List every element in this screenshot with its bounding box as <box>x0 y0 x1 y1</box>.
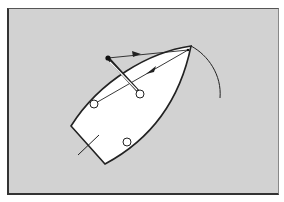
sheet-arrow-icon <box>132 51 141 57</box>
sail-arc <box>191 46 220 98</box>
hull <box>71 46 191 164</box>
forestay-point-icon <box>187 49 190 52</box>
port-fitting-icon <box>90 100 98 108</box>
centre-fitting-icon <box>136 90 144 98</box>
jib-point-icon <box>105 55 110 60</box>
starboard-fitting-icon <box>123 138 131 146</box>
dinghy-diagram <box>0 0 284 202</box>
